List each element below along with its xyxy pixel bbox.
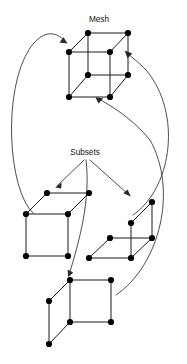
cube-edge bbox=[49, 280, 70, 301]
cube-edge bbox=[131, 238, 152, 258]
graph-node bbox=[67, 319, 73, 325]
arrow-path bbox=[126, 52, 168, 215]
graph-node bbox=[85, 30, 91, 36]
graph-node bbox=[23, 211, 29, 217]
graph-node bbox=[65, 211, 71, 217]
cube-edge bbox=[89, 238, 110, 258]
subset-cube-left bbox=[23, 190, 92, 259]
graph-node bbox=[46, 298, 52, 304]
arrow-subsets-to-bottom-cube bbox=[68, 160, 88, 277]
graph-node bbox=[108, 319, 114, 325]
cube-edge bbox=[110, 75, 128, 97]
mesh-cube bbox=[66, 30, 131, 100]
cube-edge bbox=[69, 33, 88, 52]
arrow-subsets-to-right-cube bbox=[90, 160, 131, 197]
mesh-subsets-diagram: Mesh Subsets bbox=[0, 0, 187, 364]
graph-node bbox=[128, 220, 134, 226]
graph-node bbox=[125, 30, 131, 36]
arrow-path bbox=[90, 160, 129, 195]
cube-edge bbox=[26, 193, 47, 214]
arrow-head-icon bbox=[95, 97, 103, 103]
graph-node bbox=[149, 199, 155, 205]
subsets-label: Subsets bbox=[70, 148, 100, 157]
arrow-path bbox=[69, 160, 87, 275]
graph-node bbox=[107, 235, 113, 241]
mesh-cube-edges bbox=[69, 33, 128, 97]
graph-node bbox=[66, 94, 72, 100]
arrow-path bbox=[97, 98, 163, 295]
cube-edge bbox=[131, 202, 152, 223]
subset-cube-bottom bbox=[46, 277, 114, 347]
subset-cube-bottom-edges bbox=[49, 280, 111, 344]
subset-cube-right-edges bbox=[89, 202, 152, 258]
graph-node bbox=[125, 72, 131, 78]
cube-edge bbox=[49, 322, 70, 344]
subset-cube-left-edges bbox=[26, 193, 89, 256]
graph-node bbox=[108, 277, 114, 283]
arrow-bottom-cube-to-mesh bbox=[95, 97, 163, 295]
cube-edge bbox=[110, 33, 128, 52]
arrow-right-cube-to-mesh bbox=[125, 51, 169, 215]
graph-node bbox=[66, 49, 72, 55]
graph-node bbox=[107, 94, 113, 100]
subset-cube-right-nodes bbox=[86, 199, 155, 261]
arrow-head-icon bbox=[55, 183, 61, 189]
graph-node bbox=[107, 49, 113, 55]
mesh-label: Mesh bbox=[89, 15, 109, 24]
graph-node bbox=[86, 255, 92, 261]
subset-cube-right bbox=[86, 199, 155, 261]
diagram-canvas: Mesh Subsets bbox=[0, 0, 187, 364]
arrow-path bbox=[57, 160, 84, 186]
graph-node bbox=[23, 253, 29, 259]
graph-node bbox=[46, 341, 52, 347]
graph-node bbox=[44, 190, 50, 196]
cube-edge bbox=[69, 75, 88, 97]
graph-node bbox=[67, 277, 73, 283]
graph-node bbox=[65, 253, 71, 259]
graph-node bbox=[85, 72, 91, 78]
graph-node bbox=[86, 190, 92, 196]
arrow-head-icon bbox=[60, 37, 68, 43]
arrow-subsets-to-left-cube bbox=[55, 160, 84, 188]
graph-node bbox=[128, 255, 134, 261]
graph-node bbox=[149, 235, 155, 241]
